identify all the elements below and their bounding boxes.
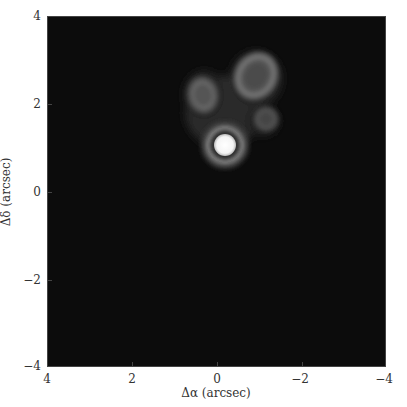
y-tick-mark: [47, 280, 52, 281]
y-tick-label: 2: [33, 97, 41, 111]
x-tick-label: −2: [291, 372, 309, 386]
y-tick-label: −2: [23, 273, 41, 287]
source-image: [48, 17, 386, 367]
x-tick-label: 0: [213, 372, 221, 386]
x-tick-label: −4: [375, 372, 393, 386]
x-tick-label: 4: [43, 372, 51, 386]
y-tick-label: −4: [23, 359, 41, 373]
y-tick-mark: [47, 104, 52, 105]
knot-west: [253, 106, 279, 132]
core: [201, 121, 249, 169]
y-tick-label: 0: [33, 185, 41, 199]
x-tick-mark: [132, 362, 133, 367]
y-tick-mark: [47, 192, 52, 193]
image-panel: [47, 16, 386, 367]
x-axis-label: Δα (arcsec): [181, 386, 251, 400]
x-tick-mark: [302, 362, 303, 367]
y-tick-label: 4: [33, 9, 41, 23]
y-axis-label: Δδ (arcsec): [0, 158, 13, 227]
x-tick-mark: [217, 362, 218, 367]
x-tick-label: 2: [128, 372, 136, 386]
